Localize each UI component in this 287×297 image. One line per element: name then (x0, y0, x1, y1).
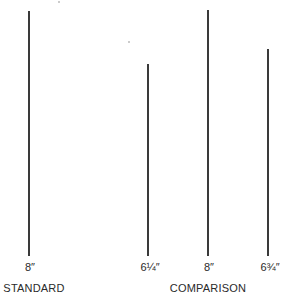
label-standard-length: 8″ (25, 261, 35, 273)
line-comparison-2 (207, 10, 209, 256)
label-comparison-2-length: 8″ (204, 261, 214, 273)
group-label-standard: STANDARD (3, 282, 64, 294)
line-standard (28, 11, 30, 256)
line-comparison-3 (267, 49, 269, 256)
scan-speck (128, 41, 130, 43)
label-comparison-1-length: 6¼″ (140, 261, 159, 273)
group-label-comparison: COMPARISON (170, 282, 246, 294)
label-comparison-3-length: 6¾″ (260, 261, 279, 273)
line-comparison-1 (147, 64, 149, 256)
scan-speck (58, 1, 60, 3)
